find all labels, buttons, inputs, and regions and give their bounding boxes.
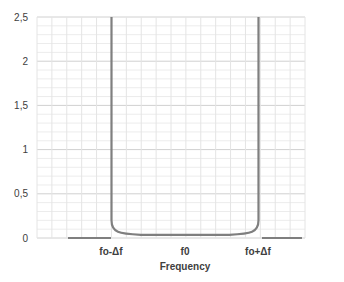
y-axis-labels: 2,521,510,50: [14, 12, 28, 244]
x-tick-f0-minus-df: fo-Δf: [99, 246, 123, 257]
response-curve: [68, 17, 302, 238]
x-axis-title: Frequency: [160, 261, 211, 272]
chart: 2,521,510,50 fo-Δf f0 fo+Δf Frequency: [0, 0, 344, 282]
y-tick-label: 0,5: [14, 188, 28, 199]
grid: [37, 17, 305, 238]
x-axis-labels: fo-Δf f0 fo+Δf: [99, 246, 271, 257]
y-tick-label: 2,5: [14, 12, 28, 23]
y-tick-label: 0: [22, 233, 28, 244]
y-tick-label: 1,5: [14, 100, 28, 111]
x-tick-f0: f0: [181, 246, 190, 257]
x-tick-f0-plus-df: fo+Δf: [245, 246, 271, 257]
y-tick-label: 2: [22, 56, 28, 67]
y-tick-label: 1: [22, 144, 28, 155]
